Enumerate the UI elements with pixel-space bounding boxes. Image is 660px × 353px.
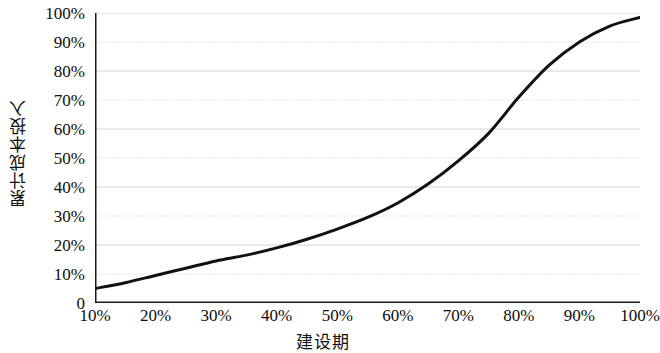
y-tick-label: 50%: [54, 150, 85, 167]
y-tick-label: 80%: [54, 63, 85, 80]
data-series-line: [95, 17, 640, 288]
y-tick-label: 100%: [45, 5, 85, 22]
x-axis-title: 建设期: [0, 328, 646, 353]
y-tick-label: 60%: [54, 121, 85, 138]
x-tick-label: 50%: [322, 307, 353, 324]
y-tick-label: 90%: [54, 34, 85, 51]
y-tick-label: 10%: [54, 266, 85, 283]
y-axis-tick-labels: 010%20%30%40%50%60%70%80%90%100%: [28, 0, 90, 320]
gridlines: [95, 13, 640, 274]
x-axis-title-label: 建设期: [296, 332, 350, 352]
x-tick-label: 30%: [201, 307, 232, 324]
y-tick-label: 40%: [54, 179, 85, 196]
x-tick-label: 20%: [140, 307, 171, 324]
y-tick-label: 20%: [54, 237, 85, 254]
x-tick-label: 70%: [443, 307, 474, 324]
plot-area: [95, 13, 640, 303]
y-axis-title-label: 累计成本投入: [5, 99, 30, 207]
x-tick-label: 60%: [382, 307, 413, 324]
x-tick-label: 100%: [620, 307, 660, 324]
x-tick-label: 10%: [79, 307, 110, 324]
x-tick-label: 40%: [261, 307, 292, 324]
y-tick-label: 30%: [54, 208, 85, 225]
y-tick-label: 70%: [54, 92, 85, 109]
x-tick-label: 80%: [503, 307, 534, 324]
x-tick-label: 90%: [564, 307, 595, 324]
plot-svg: [95, 13, 640, 303]
